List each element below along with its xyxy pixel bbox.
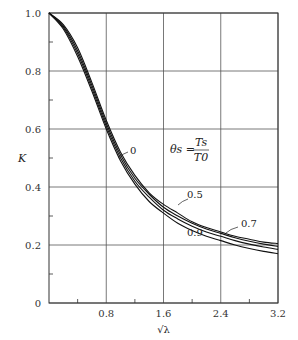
y-tick-label: 0.4 [25,182,41,193]
x-tick-label: 0.8 [98,308,114,319]
y-tick-label: 1.0 [25,8,41,19]
curve-label-0.7: 0.7 [241,218,257,229]
x-tick-label: 3.2 [270,308,286,319]
y-tick-label: 0.6 [25,124,41,135]
theta-denominator: T0 [194,151,208,164]
curve-label-0.9: 0.9 [187,227,203,238]
curve-label-0: 0 [130,145,136,156]
curve-label-0.5: 0.5 [187,189,203,200]
y-tick-label: 0.2 [25,240,41,251]
x-tick-label: 2.4 [213,308,229,319]
theta-lhs: θs = [170,143,195,156]
x-tick-label: 1.6 [156,308,172,319]
chart: 0.81.62.43.200.20.40.60.81.0K√λ00.50.70.… [0,0,298,340]
leader-line [226,227,238,233]
y-axis-label: K [17,152,27,165]
theta-numerator: Ts [195,136,208,149]
x-axis-label: √λ [157,324,170,335]
y-tick-label: 0 [35,298,41,309]
y-tick-label: 0.8 [25,66,41,77]
